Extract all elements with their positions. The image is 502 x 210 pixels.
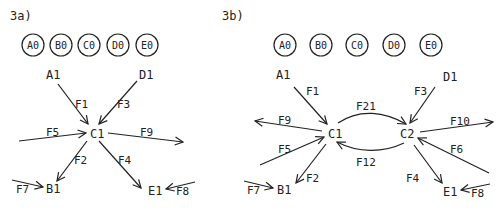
edge-label-f12: F12: [356, 156, 376, 169]
state-d0: D0: [388, 40, 400, 51]
node-c2: C2: [400, 127, 414, 141]
state-a0: A0: [27, 40, 39, 51]
state-e0: E0: [141, 40, 153, 51]
node-b1: B1: [277, 183, 291, 197]
node-b1: B1: [46, 182, 60, 196]
edge-label-f1: F1: [75, 98, 88, 111]
edge-label-f10: F10: [450, 115, 470, 128]
node-e1: E1: [443, 185, 457, 199]
state-c0: C0: [83, 40, 95, 51]
panel-3a: 3a) A0 B0 C0 D0 E0 A1 D1 C1 B1 E1 F1 F3: [10, 9, 195, 198]
flow-diagram: 3a) A0 B0 C0 D0 E0 A1 D1 C1 B1 E1 F1 F3: [0, 0, 502, 210]
state-c0: C0: [351, 40, 363, 51]
edge-label-f2: F2: [306, 172, 319, 185]
edge-label-f6: F6: [450, 143, 463, 156]
edge-label-f1: F1: [306, 85, 319, 98]
state-d0: D0: [112, 40, 124, 51]
edge-label-f4: F4: [406, 172, 420, 185]
edge-label-f7: F7: [16, 183, 29, 196]
edge-f12-arrow: [337, 142, 404, 150]
edge-label-f3: F3: [414, 85, 427, 98]
node-a1: A1: [276, 68, 290, 82]
state-row-3a: A0 B0 C0 D0 E0: [22, 34, 158, 56]
edge-label-f5: F5: [278, 143, 291, 156]
edge-label-f8: F8: [176, 185, 189, 198]
state-b0: B0: [315, 40, 327, 51]
edge-label-f9: F9: [278, 114, 291, 127]
panel-label-3a: 3a): [10, 9, 32, 23]
edge-label-f9: F9: [140, 126, 153, 139]
state-row-3b: A0 B0 C0 D0 E0: [274, 34, 442, 56]
edge-label-f5: F5: [46, 126, 59, 139]
node-e1: E1: [148, 184, 162, 198]
panel-label-3b: 3b): [222, 9, 244, 23]
state-a0: A0: [279, 40, 291, 51]
edge-label-f8: F8: [471, 187, 484, 200]
node-c1: C1: [328, 127, 342, 141]
edge-label-f7: F7: [247, 184, 260, 197]
edge-f5-arrow: [260, 137, 324, 165]
edge-label-f2: F2: [74, 154, 87, 167]
node-d1: D1: [139, 68, 153, 82]
node-d1: D1: [443, 70, 457, 84]
state-b0: B0: [55, 40, 67, 51]
panel-3b: 3b) A0 B0 C0 D0 E0 A1 D1 C1 C2 B1 E1: [222, 9, 493, 200]
edge-label-f21: F21: [356, 100, 376, 113]
edge-f21-arrow: [338, 113, 406, 124]
edge-label-f3: F3: [117, 98, 130, 111]
edge-label-f4: F4: [118, 154, 132, 167]
node-c1: C1: [90, 127, 104, 141]
state-e0: E0: [425, 40, 437, 51]
node-a1: A1: [46, 68, 60, 82]
